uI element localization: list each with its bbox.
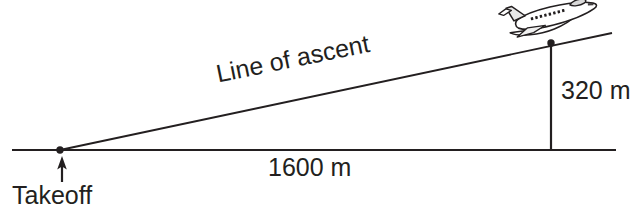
height-label: 320 m xyxy=(561,78,630,103)
base-distance-label: 1600 m xyxy=(268,155,351,180)
ascent-diagram: Takeoff 1600 m 320 m Line of ascent xyxy=(0,0,644,215)
takeoff-label: Takeoff xyxy=(12,183,92,208)
plane-point-dot xyxy=(547,39,554,46)
airplane-icon xyxy=(498,0,600,41)
up-arrow-icon xyxy=(57,156,67,182)
takeoff-point-dot xyxy=(56,146,63,153)
diagram-canvas xyxy=(0,0,644,215)
